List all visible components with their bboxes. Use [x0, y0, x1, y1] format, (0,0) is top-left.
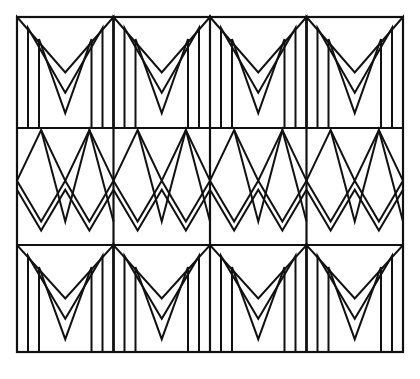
geometric-pattern-artwork [0, 0, 420, 379]
